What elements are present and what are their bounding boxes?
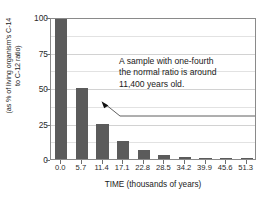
x-tick-mark — [143, 160, 144, 164]
y-tick-mark — [46, 18, 50, 19]
bar — [76, 88, 88, 159]
y-tick-label: 50 — [22, 84, 48, 94]
x-tick-label: 22.8 — [135, 163, 150, 172]
bar — [138, 150, 150, 159]
bar — [179, 157, 191, 159]
x-tick-label: 51.3 — [238, 163, 253, 172]
bar — [220, 158, 232, 159]
bar — [96, 124, 108, 160]
y-axis-tick-labels: 0255075100 — [18, 0, 48, 203]
x-tick-label: 17.1 — [115, 163, 130, 172]
bar — [158, 155, 170, 159]
x-tick-label: 11.4 — [94, 163, 108, 172]
x-tick-label: 5.7 — [76, 163, 87, 172]
bar — [241, 158, 253, 159]
x-tick-mark — [60, 160, 61, 164]
y-tick-mark — [46, 89, 50, 90]
bar — [199, 158, 211, 159]
y-tick-label: 0 — [22, 155, 48, 165]
bar — [55, 18, 67, 159]
x-tick-mark — [225, 160, 226, 164]
y-tick-label: 100 — [22, 13, 48, 23]
x-tick-label: 28.5 — [156, 163, 171, 172]
x-tick-label: 39.9 — [197, 163, 212, 172]
x-tick-label: 34.2 — [177, 163, 192, 172]
y-tick-mark — [46, 54, 50, 55]
carbon-14-decay-chart: (as % of living organism's C-14 to C-12 … — [0, 0, 268, 203]
x-tick-mark — [81, 160, 82, 164]
x-tick-mark — [246, 160, 247, 164]
y-tick-mark — [46, 125, 50, 126]
x-tick-label: 0.0 — [55, 163, 66, 172]
bar — [117, 141, 129, 159]
x-tick-mark — [205, 160, 206, 164]
x-tick-mark — [122, 160, 123, 164]
x-tick-label: 45.6 — [218, 163, 233, 172]
annotation-text: A sample with one-fourth the normal rati… — [119, 56, 255, 90]
y-tick-label: 25 — [22, 120, 48, 130]
y-tick-label: 75 — [22, 49, 48, 59]
x-tick-mark — [102, 160, 103, 164]
x-tick-mark — [163, 160, 164, 164]
x-tick-mark — [184, 160, 185, 164]
x-axis-title: TIME (thousands of years) — [50, 180, 256, 189]
y-tick-mark — [46, 160, 50, 161]
